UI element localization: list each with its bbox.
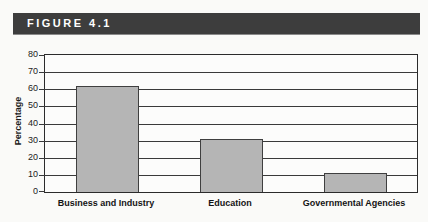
- scanned-figure-page: FIGURE 4.1 Percentage 01020304050607080 …: [0, 0, 428, 222]
- ytick-label-20: 20: [8, 152, 38, 162]
- x-axis-labels: Business and IndustryEducationGovernment…: [44, 198, 416, 208]
- ytick-label-30: 30: [8, 135, 38, 145]
- ytick-label-60: 60: [8, 83, 38, 93]
- bar-0: [76, 86, 139, 192]
- ytick-label-80: 80: [8, 49, 38, 59]
- xlabel-2: Governmental Agencies: [292, 198, 416, 208]
- bar-column: [293, 55, 417, 192]
- ytick-label-40: 40: [8, 118, 38, 128]
- ytick-label-70: 70: [8, 66, 38, 76]
- bar-column: [169, 55, 293, 192]
- xlabel-0: Business and Industry: [44, 198, 168, 208]
- bar-chart: Percentage 01020304050607080 Business an…: [0, 0, 428, 222]
- bar-2: [324, 173, 387, 192]
- ytick-label-10: 10: [8, 169, 38, 179]
- bar-1: [200, 139, 263, 192]
- plot-area: [44, 54, 418, 193]
- bars-row: [45, 55, 417, 192]
- bar-column: [45, 55, 169, 192]
- xlabel-1: Education: [168, 198, 292, 208]
- ytick-label-0: 0: [8, 186, 38, 196]
- ytick-label-50: 50: [8, 100, 38, 110]
